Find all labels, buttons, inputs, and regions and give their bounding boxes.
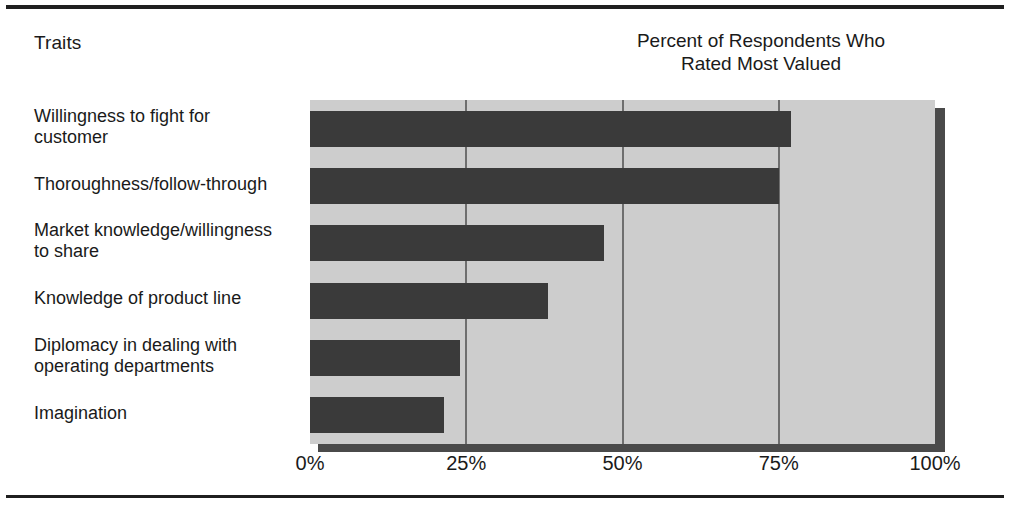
y-axis-title: Traits [34, 32, 81, 54]
category-label-line: customer [48, 127, 320, 148]
category-label-line: Knowledge of product line [48, 288, 320, 309]
x-axis-tick-label: 100% [885, 452, 985, 475]
frame-rule-bottom [6, 495, 1004, 498]
x-axis-tick-label: 0% [260, 452, 360, 475]
chart-title: Percent of Respondents Who Rated Most Va… [596, 29, 926, 75]
bar [310, 225, 604, 261]
bar [310, 340, 460, 376]
gridline-50 [622, 100, 624, 444]
gridline-25 [465, 100, 467, 444]
x-axis-tick-label: 50% [573, 452, 673, 475]
category-label-line: Thoroughness/follow-through [48, 174, 320, 195]
chart-figure: Traits Percent of Respondents Who Rated … [0, 0, 1010, 507]
frame-rule-top [6, 5, 1004, 9]
chart-title-line-1: Percent of Respondents Who [596, 29, 926, 52]
plot-area [310, 100, 935, 444]
x-axis-tick-label: 75% [729, 452, 829, 475]
category-label-line: Market knowledge/willingness [48, 220, 320, 241]
bar [310, 397, 444, 433]
category-label: Imagination [34, 403, 320, 424]
chart-title-line-2: Rated Most Valued [596, 52, 926, 75]
category-label: Knowledge of product line [34, 288, 320, 309]
category-label-line: operating departments [48, 356, 320, 377]
category-label: Market knowledge/willingnessto share [34, 220, 320, 262]
category-label-line: Diplomacy in dealing with [48, 335, 320, 356]
category-label: Thoroughness/follow-through [34, 174, 320, 195]
category-label-line: to share [48, 241, 320, 262]
bar [310, 111, 791, 147]
gridline-75 [778, 100, 780, 444]
bar [310, 283, 548, 319]
x-axis-tick-label: 25% [416, 452, 516, 475]
category-label: Diplomacy in dealing withoperating depar… [34, 335, 320, 377]
category-label-line: Willingness to fight for [48, 106, 320, 127]
category-label-line: Imagination [48, 403, 320, 424]
category-label: Willingness to fight forcustomer [34, 106, 320, 148]
bar [310, 168, 779, 204]
